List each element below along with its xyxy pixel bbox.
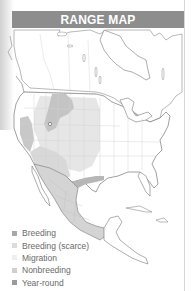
legend-item-migration: Migration bbox=[12, 252, 89, 264]
legend-label: Breeding (scarce) bbox=[22, 241, 89, 251]
legend-label: Nonbreeding bbox=[22, 265, 71, 275]
legend-label: Year-round bbox=[22, 278, 64, 288]
legend-swatch-migration bbox=[12, 255, 17, 260]
legend-item-nonbreeding: Nonbreeding bbox=[12, 264, 89, 276]
legend-label: Breeding bbox=[22, 228, 56, 238]
legend-label: Migration bbox=[22, 253, 57, 263]
header-title: RANGE MAP bbox=[60, 13, 135, 27]
legend-swatch-year-round bbox=[12, 280, 17, 285]
cuba bbox=[126, 206, 152, 212]
legend-item-breeding-scarce: Breeding (scarce) bbox=[12, 239, 89, 251]
central-america bbox=[104, 216, 148, 264]
legend-item-breeding: Breeding bbox=[12, 227, 89, 239]
range-map-legend: Breeding Breeding (scarce) Migration Non… bbox=[12, 227, 89, 289]
legend-swatch-breeding bbox=[12, 231, 17, 236]
legend-swatch-breeding-scarce bbox=[12, 243, 17, 248]
location-marker bbox=[48, 122, 51, 125]
legend-swatch-nonbreeding bbox=[12, 268, 17, 273]
legend-item-year-round: Year-round bbox=[12, 277, 89, 289]
range-map-panel: RANGE MAP bbox=[0, 0, 185, 291]
range-map-header: RANGE MAP bbox=[12, 11, 184, 28]
